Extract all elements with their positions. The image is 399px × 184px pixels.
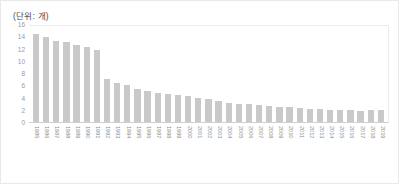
bar (205, 99, 211, 122)
x-axis-tick-slot: 1994 (123, 124, 133, 182)
chart-unit-title: (단위: 개) (13, 9, 49, 21)
x-axis-tick-slot: 2009 (275, 124, 285, 182)
bar (104, 79, 110, 122)
x-axis-tick-label: 1989 (74, 126, 80, 138)
bar (33, 34, 39, 122)
x-axis-tick-slot: 2003 (214, 124, 224, 182)
bar (317, 109, 323, 122)
y-axis-tick: 16 (18, 22, 25, 29)
x-axis-tick-label: 2015 (338, 126, 344, 138)
x-axis-tick-label: 2009 (277, 126, 283, 138)
bar (53, 41, 59, 122)
bar-slot (305, 26, 315, 122)
bar-slot (132, 26, 142, 122)
x-axis-tick-label: 2012 (308, 126, 314, 138)
bar-slot (183, 26, 193, 122)
x-axis-tick-label: 2008 (267, 126, 273, 138)
y-axis-tick: 0 (21, 120, 25, 127)
bar (297, 108, 303, 122)
x-axis-tick-label: 1996 (145, 126, 151, 138)
x-axis-tick-slot: 1997 (153, 124, 163, 182)
bar-slot (356, 26, 366, 122)
bar (144, 91, 150, 122)
bar-slot (335, 26, 345, 122)
bar (124, 85, 130, 122)
y-axis: 1614121086420 (1, 25, 29, 123)
x-axis-tick-label: 1985 (33, 126, 39, 138)
bar (114, 83, 120, 122)
x-axis-tick-slot: 2004 (224, 124, 234, 182)
x-axis-tick-slot: 2012 (306, 124, 316, 182)
y-axis-tick: 4 (21, 95, 25, 102)
y-axis-tick: 14 (18, 34, 25, 41)
x-axis-tick-slot: 2015 (336, 124, 346, 182)
bar-slot (264, 26, 274, 122)
x-axis-tick-label: 2016 (349, 126, 355, 138)
bar (226, 103, 232, 122)
bar-slot (224, 26, 234, 122)
bar-slot (41, 26, 51, 122)
bar-slot (82, 26, 92, 122)
bar-slot (102, 26, 112, 122)
bar-slot (153, 26, 163, 122)
bar (286, 107, 292, 122)
bar-slot (163, 26, 173, 122)
bar-slot (214, 26, 224, 122)
bar (155, 93, 161, 122)
bar (134, 89, 140, 122)
x-axis-tick-slot: 2010 (285, 124, 295, 182)
plot-area (29, 25, 389, 123)
bar-slot (143, 26, 153, 122)
x-axis-tick-slot: 1986 (41, 124, 51, 182)
bar-slot (274, 26, 284, 122)
x-axis-tick-label: 1993 (115, 126, 121, 138)
bar-slot (112, 26, 122, 122)
x-axis-tick-label: 2007 (257, 126, 263, 138)
bar-slot (122, 26, 132, 122)
y-axis-tick: 2 (21, 108, 25, 115)
y-axis-tick: 10 (18, 59, 25, 66)
x-axis-tick-label: 2000 (186, 126, 192, 138)
bar-slot (295, 26, 305, 122)
x-axis-tick-label: 1986 (43, 126, 49, 138)
y-axis-tick: 8 (21, 71, 25, 78)
x-axis-tick-label: 2002 (206, 126, 212, 138)
x-axis-tick-label: 2006 (247, 126, 253, 138)
bar-slot (366, 26, 376, 122)
x-axis-tick-label: 2014 (328, 126, 334, 138)
x-axis-tick-slot: 1990 (82, 124, 92, 182)
bar (337, 110, 343, 122)
bar-slot (244, 26, 254, 122)
bar (236, 104, 242, 122)
x-axis-tick-slot: 2007 (255, 124, 265, 182)
bar (43, 37, 49, 122)
x-axis-tick-slot: 1999 (173, 124, 183, 182)
bar-slot (376, 26, 386, 122)
x-axis-tick-label: 2005 (237, 126, 243, 138)
bar (185, 96, 191, 122)
x-axis-tick-slot: 2011 (295, 124, 305, 182)
bar (165, 94, 171, 122)
bar (195, 98, 201, 122)
x-axis-tick-label: 1999 (176, 126, 182, 138)
bar (256, 105, 262, 122)
bar (94, 50, 100, 122)
bar (73, 45, 79, 122)
bar-slot (173, 26, 183, 122)
x-axis-tick-slot: 2013 (316, 124, 326, 182)
bar (347, 110, 353, 122)
x-axis-tick-slot: 2019 (377, 124, 387, 182)
x-axis-tick-label: 1987 (54, 126, 60, 138)
bar-slot (254, 26, 264, 122)
bar-series (29, 26, 388, 122)
bar (368, 110, 374, 122)
x-axis-tick-label: 2013 (318, 126, 324, 138)
x-axis-tick-label: 1995 (135, 126, 141, 138)
bar-slot (31, 26, 41, 122)
bar-slot (72, 26, 82, 122)
bar (175, 95, 181, 122)
bar (63, 42, 69, 122)
x-axis-tick-slot: 1988 (62, 124, 72, 182)
y-axis-tick: 6 (21, 83, 25, 90)
x-axis-tick-slot: 1987 (51, 124, 61, 182)
